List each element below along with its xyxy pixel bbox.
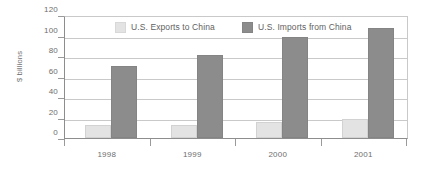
x-tick-label-2000: 2000	[248, 150, 308, 159]
y-tick-label: 120	[26, 6, 58, 14]
y-tick-label: 100	[26, 27, 58, 35]
y-tick-label: 0	[26, 129, 58, 137]
y-tick-label: 40	[26, 88, 58, 96]
bar-imports-1999	[197, 55, 223, 138]
x-tick-label-1998: 1998	[77, 150, 137, 159]
x-tick-mark	[150, 139, 151, 146]
bar-imports-2001	[368, 28, 394, 138]
bar-group-1998	[65, 17, 151, 138]
bar-chart-figure: $ billions 120 100 80 60 40 20 0 U.S. Ex…	[0, 0, 424, 173]
bar-group-1999	[151, 17, 237, 138]
bar-group-2000	[236, 17, 322, 138]
bar-exports-1998	[85, 125, 111, 138]
x-axis: 1998 1999 2000 2001	[64, 139, 408, 169]
x-tick-mark	[321, 139, 322, 146]
bar-exports-2001	[342, 119, 368, 138]
y-axis-title: $ billions	[15, 37, 24, 97]
bar-group-2001	[322, 17, 408, 138]
bar-exports-2000	[256, 122, 282, 138]
bar-imports-1998	[111, 66, 137, 138]
x-tick-label-1999: 1999	[162, 150, 222, 159]
plot-area: U.S. Exports to China U.S. Imports from …	[64, 16, 408, 139]
y-tick-label: 20	[26, 109, 58, 117]
x-tick-mark	[235, 139, 236, 146]
y-tick-label: 60	[26, 68, 58, 76]
x-tick-mark	[64, 139, 65, 146]
bar-imports-2000	[282, 37, 308, 138]
x-tick-mark	[406, 139, 407, 146]
y-tick-label: 80	[26, 47, 58, 55]
x-tick-label-2001: 2001	[333, 150, 393, 159]
bar-exports-1999	[171, 125, 197, 138]
y-axis-tick-labels: 120 100 80 60 40 20 0	[26, 10, 58, 142]
